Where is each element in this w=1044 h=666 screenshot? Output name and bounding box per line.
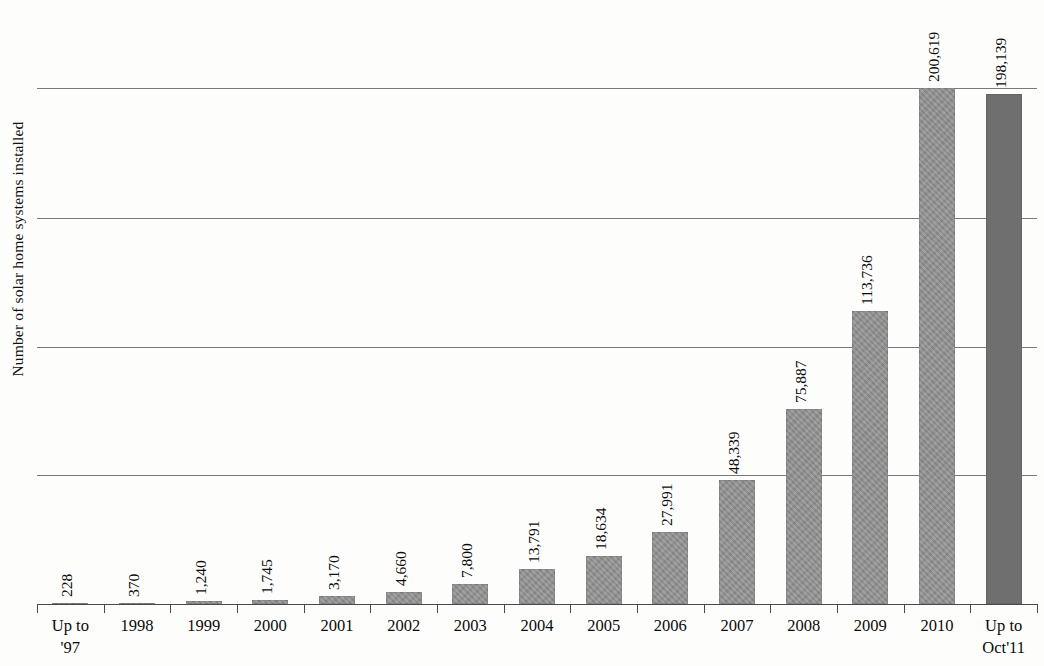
x-axis-tick — [637, 604, 638, 613]
x-axis-label: 2006 — [637, 615, 704, 637]
bar[interactable] — [586, 556, 622, 604]
bar[interactable] — [119, 603, 155, 605]
x-axis-label: Up to'97 — [37, 615, 104, 659]
bar[interactable] — [186, 601, 222, 604]
x-axis-label-line1: 2007 — [720, 616, 753, 635]
x-axis-label-line1: Up to — [985, 616, 1022, 635]
bar[interactable] — [986, 94, 1022, 604]
bar-value-label: 4,660 — [391, 551, 409, 586]
x-axis-label: 2002 — [370, 615, 437, 637]
bar[interactable] — [319, 596, 355, 604]
x-axis-tick — [370, 604, 371, 613]
x-axis-label-line2: '97 — [37, 637, 104, 659]
bar[interactable] — [852, 311, 888, 604]
x-axis-label-line1: 2006 — [654, 616, 687, 635]
x-axis-tick — [504, 604, 505, 613]
bar-value-label: 48,339 — [724, 431, 742, 474]
x-axis-label-line1: 2001 — [320, 616, 353, 635]
x-axis-label: 2005 — [570, 615, 637, 637]
x-axis-label: 2010 — [904, 615, 971, 637]
bar-slot: 1,240 — [170, 0, 237, 605]
x-axis-tick — [1037, 604, 1038, 613]
bar-value-label: 7,800 — [458, 543, 476, 578]
x-axis-tick — [570, 604, 571, 613]
x-axis-tick — [837, 604, 838, 613]
x-axis-label-line1: 2005 — [587, 616, 620, 635]
x-axis-tick — [437, 604, 438, 613]
x-axis-tick — [770, 604, 771, 613]
y-axis-title: Number of solar home systems installed — [0, 0, 34, 560]
bar[interactable] — [252, 600, 288, 604]
bar-slot: 75,887 — [770, 0, 837, 605]
x-axis-label: 2003 — [437, 615, 504, 637]
bar[interactable] — [652, 532, 688, 604]
bar-value-label: 13,791 — [524, 520, 542, 563]
x-axis-label-line1: 2003 — [454, 616, 487, 635]
x-axis-label-line1: 2010 — [920, 616, 953, 635]
x-axis-tick — [170, 604, 171, 613]
bar-slot: 4,660 — [370, 0, 437, 605]
bar[interactable] — [719, 480, 755, 604]
bar-value-label: 75,887 — [791, 360, 809, 403]
x-axis-label-line1: 2004 — [520, 616, 553, 635]
x-axis-label-line1: 1998 — [120, 616, 153, 635]
x-axis-label: 2000 — [237, 615, 304, 637]
x-axis-tick — [304, 604, 305, 613]
bar-slot: 18,634 — [570, 0, 637, 605]
bar-slot: 198,139 — [970, 0, 1037, 605]
x-axis-tick — [970, 604, 971, 613]
x-axis-label: 2004 — [504, 615, 571, 637]
bar-chart: Number of solar home systems installed 2… — [0, 0, 1044, 666]
bar[interactable] — [386, 592, 422, 604]
bar-slot: 228 — [37, 0, 104, 605]
bar-slot: 27,991 — [637, 0, 704, 605]
bar[interactable] — [452, 584, 488, 604]
bar[interactable] — [519, 569, 555, 604]
x-axis-label: 2009 — [837, 615, 904, 637]
x-axis-tick — [904, 604, 905, 613]
x-axis-label: 2008 — [770, 615, 837, 637]
bar[interactable] — [919, 88, 955, 604]
x-axis-label-line1: 2002 — [387, 616, 420, 635]
x-axis-labels: Up to'9719981999200020012002200320042005… — [37, 615, 1037, 665]
x-axis-label-line2: Oct'11 — [970, 637, 1037, 659]
x-axis-label: 1998 — [104, 615, 171, 637]
bars-layer: 2283701,2401,7453,1704,6607,80013,79118,… — [37, 0, 1037, 605]
bar-slot: 200,619 — [904, 0, 971, 605]
bar-value-label: 113,736 — [858, 256, 876, 306]
x-axis-label: Up toOct'11 — [970, 615, 1037, 659]
bar-value-label: 198,139 — [991, 38, 1009, 88]
bar-value-label: 1,240 — [191, 560, 209, 595]
bar-slot: 48,339 — [704, 0, 771, 605]
bar-slot: 7,800 — [437, 0, 504, 605]
bar-slot: 1,745 — [237, 0, 304, 605]
x-axis-label-line1: Up to — [52, 616, 89, 635]
bar-value-label: 27,991 — [658, 483, 676, 526]
bar-value-label: 3,170 — [324, 555, 342, 590]
bar-value-label: 228 — [58, 573, 76, 596]
bar-value-label: 370 — [124, 573, 142, 596]
bar[interactable] — [786, 409, 822, 604]
x-axis-label-line1: 2008 — [787, 616, 820, 635]
x-axis-tick — [237, 604, 238, 613]
bar-value-label: 18,634 — [591, 507, 609, 550]
x-axis-label: 2001 — [304, 615, 371, 637]
bar-value-label: 200,619 — [924, 32, 942, 82]
bar[interactable] — [52, 603, 88, 605]
x-axis-tick — [37, 604, 38, 613]
x-axis-label-line1: 2009 — [854, 616, 887, 635]
x-axis-tick — [104, 604, 105, 613]
y-axis-title-text: Number of solar home systems installed — [9, 79, 27, 419]
x-axis-tick — [704, 604, 705, 613]
x-axis-label-line1: 1999 — [187, 616, 220, 635]
x-axis-label: 1999 — [170, 615, 237, 637]
x-axis-label-line1: 2000 — [254, 616, 287, 635]
bar-slot: 113,736 — [837, 0, 904, 605]
bar-slot: 13,791 — [504, 0, 571, 605]
x-axis-label: 2007 — [704, 615, 771, 637]
bar-slot: 3,170 — [304, 0, 371, 605]
bar-slot: 370 — [104, 0, 171, 605]
bar-value-label: 1,745 — [258, 559, 276, 594]
